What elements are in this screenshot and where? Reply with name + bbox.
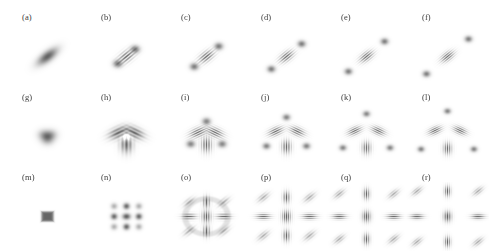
panel-plot-r (406, 182, 489, 251)
panel-label-p: (p) (261, 172, 271, 182)
density-map-o (165, 182, 248, 251)
panel-q: (q) (325, 170, 408, 251)
panel-a: (a) (6, 10, 89, 91)
density-map-k (325, 102, 408, 171)
density-map-b (85, 22, 168, 91)
panel-k: (k) (325, 90, 408, 171)
panel-label-c: (c) (181, 12, 191, 22)
panel-plot-d (245, 22, 328, 91)
density-map-l (406, 102, 489, 171)
density-map-n (85, 182, 168, 251)
density-map-c (165, 22, 248, 91)
figure-panel-grid: (a)(b)(c)(d)(e)(f)(g)(h)(i)(j)(k)(l)(m)(… (0, 0, 498, 251)
panel-plot-h (85, 102, 168, 171)
panel-label-d: (d) (261, 12, 271, 22)
density-map-h (85, 102, 168, 171)
panel-d: (d) (245, 10, 328, 91)
panel-plot-e (325, 22, 408, 91)
panel-plot-l (406, 102, 489, 171)
panel-o: (o) (165, 170, 248, 251)
panel-plot-o (165, 182, 248, 251)
panel-plot-m (6, 182, 89, 251)
density-map-q (325, 182, 408, 251)
panel-plot-a (6, 22, 89, 91)
panel-label-o: (o) (181, 172, 191, 182)
panel-plot-j (245, 102, 328, 171)
panel-label-n: (n) (101, 172, 111, 182)
density-map-j (245, 102, 328, 171)
panel-label-f: (f) (422, 12, 431, 22)
panel-f: (f) (406, 10, 489, 91)
panel-label-k: (k) (341, 92, 351, 102)
panel-label-e: (e) (341, 12, 351, 22)
panel-plot-c (165, 22, 248, 91)
top-cropped-caption (150, 0, 370, 2)
panel-plot-p (245, 182, 328, 251)
panel-l: (l) (406, 90, 489, 171)
panel-plot-k (325, 102, 408, 171)
panel-e: (e) (325, 10, 408, 91)
panel-plot-g (6, 102, 89, 171)
panel-plot-b (85, 22, 168, 91)
panel-label-j: (j) (261, 92, 269, 102)
panel-i: (i) (165, 90, 248, 171)
panel-label-a: (a) (22, 12, 32, 22)
panel-j: (j) (245, 90, 328, 171)
density-map-a (6, 22, 89, 91)
panel-label-r: (r) (422, 172, 431, 182)
density-map-r (406, 182, 489, 251)
density-map-m (6, 182, 89, 251)
density-map-p (245, 182, 328, 251)
panel-label-i: (i) (181, 92, 189, 102)
panel-g: (g) (6, 90, 89, 171)
panel-label-b: (b) (101, 12, 111, 22)
panel-m: (m) (6, 170, 89, 251)
panel-c: (c) (165, 10, 248, 91)
panel-plot-q (325, 182, 408, 251)
panel-label-m: (m) (22, 172, 35, 182)
panel-label-q: (q) (341, 172, 351, 182)
panel-plot-n (85, 182, 168, 251)
density-map-i (165, 102, 248, 171)
panel-r: (r) (406, 170, 489, 251)
panel-label-g: (g) (22, 92, 32, 102)
panel-h: (h) (85, 90, 168, 171)
panel-plot-i (165, 102, 248, 171)
panel-b: (b) (85, 10, 168, 91)
density-map-d (245, 22, 328, 91)
panel-p: (p) (245, 170, 328, 251)
panel-label-h: (h) (101, 92, 111, 102)
panel-n: (n) (85, 170, 168, 251)
panel-label-l: (l) (422, 92, 430, 102)
density-map-e (325, 22, 408, 91)
density-map-f (406, 22, 489, 91)
panel-plot-f (406, 22, 489, 91)
density-map-g (6, 102, 89, 171)
